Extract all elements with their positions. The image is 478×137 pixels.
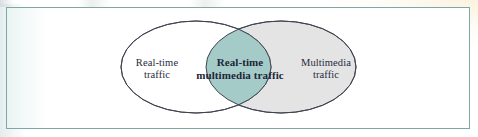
set-label-real-time-line1: Real-time: [124, 57, 190, 69]
set-label-multimedia-line1: Multimedia: [291, 57, 361, 69]
figure-canvas: Real-time traffic Real-time multimedia t…: [0, 0, 478, 137]
set-label-real-time: Real-time traffic: [124, 57, 190, 82]
set-label-multimedia-line2: traffic: [291, 69, 361, 81]
intersection-label-line1: Real-time: [192, 56, 288, 69]
intersection-label-real-time-multimedia: Real-time multimedia traffic: [192, 56, 288, 82]
set-label-multimedia: Multimedia traffic: [291, 57, 361, 82]
set-label-real-time-line2: traffic: [124, 69, 190, 81]
intersection-label-line2: multimedia traffic: [192, 69, 288, 82]
scan-artifact-top: [0, 0, 478, 7]
